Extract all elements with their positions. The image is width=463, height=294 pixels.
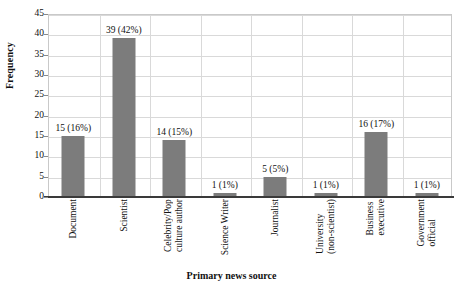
x-axis-category-label: Science Writer: [200, 199, 251, 265]
y-axis-title: Frequency: [4, 21, 15, 111]
category-label-line: Document: [68, 199, 79, 239]
x-axis-category-label: Businessexecutive: [351, 199, 402, 265]
category-label-line: Business: [365, 199, 376, 235]
y-axis-tick-labels: 454035302520151050: [22, 14, 44, 197]
x-axis-category-label: Celebrity/Popculture author: [149, 199, 200, 265]
category-label-line: culture author: [174, 199, 185, 252]
bar[interactable]: [112, 38, 135, 197]
y-axis-tick-label: 35: [35, 50, 45, 60]
category-label-lines: Governmentofficial: [416, 199, 438, 247]
bar[interactable]: [264, 177, 287, 197]
bar-value-label: 14 (15%): [156, 127, 192, 137]
y-axis-tickmark: [44, 177, 48, 178]
y-axis-tickmark: [44, 95, 48, 96]
y-axis-tickmark: [44, 116, 48, 117]
bar-group[interactable]: 15 (16%): [48, 14, 99, 197]
category-label-line: Government: [416, 199, 427, 247]
category-label-lines: Businessexecutive: [365, 199, 387, 235]
x-axis-category-labels: DocumentScientistCelebrity/Popculture au…: [48, 199, 452, 269]
y-axis-tick-label: 20: [35, 111, 45, 121]
x-axis-category-label: University(non-scientist): [301, 199, 352, 265]
y-axis-tickmark: [44, 156, 48, 157]
bar[interactable]: [163, 140, 186, 197]
y-axis-tick-label: 30: [35, 70, 45, 80]
y-axis-tickmark: [44, 55, 48, 56]
bar-group[interactable]: 14 (15%): [149, 14, 200, 197]
bar[interactable]: [62, 136, 85, 197]
bar-group[interactable]: 16 (17%): [351, 14, 402, 197]
x-axis-category-label: Governmentofficial: [402, 199, 453, 265]
bar-value-label: 1 (1%): [414, 180, 440, 190]
y-axis-tick-label: 10: [35, 151, 45, 161]
bar-group[interactable]: 39 (42%): [99, 14, 150, 197]
x-axis-title: Primary news source: [0, 270, 463, 281]
bar-value-label: 5 (5%): [262, 164, 288, 174]
x-axis-category-label: Journalist: [250, 199, 301, 265]
y-axis-tickmark: [44, 14, 48, 15]
bar-group[interactable]: 1 (1%): [301, 14, 352, 197]
y-axis-tickmark: [44, 197, 48, 198]
bar-chart: Frequency 454035302520151050 15 (16%)39 …: [0, 0, 463, 294]
bars-layer: 15 (16%)39 (42%)14 (15%)1 (1%)5 (5%)1 (1…: [48, 14, 452, 197]
y-axis-tick-label: 25: [35, 90, 45, 100]
category-label-line: Scientist: [118, 199, 129, 232]
category-label-lines: Celebrity/Popculture author: [163, 199, 185, 252]
category-label-line: Journalist: [270, 199, 281, 236]
y-axis-tickmark: [44, 34, 48, 35]
category-label-line: Celebrity/Pop: [163, 199, 174, 252]
bar-value-label: 39 (42%): [106, 25, 142, 35]
y-axis-tick-label: 15: [35, 131, 45, 141]
bar-group[interactable]: 1 (1%): [402, 14, 453, 197]
category-label-line: official: [427, 199, 438, 247]
y-axis-tickmark: [44, 136, 48, 137]
category-label-line: executive: [376, 199, 387, 235]
category-label-lines: Document: [68, 199, 79, 239]
bar-group[interactable]: 1 (1%): [200, 14, 251, 197]
category-label-line: (non-scientist): [326, 199, 337, 254]
category-label-lines: University(non-scientist): [315, 199, 337, 254]
x-axis-line: [44, 196, 454, 198]
x-axis-category-label: Document: [48, 199, 99, 265]
category-label-lines: Journalist: [270, 199, 281, 236]
bar-value-label: 16 (17%): [358, 119, 394, 129]
bar-value-label: 15 (16%): [55, 123, 91, 133]
y-axis-tick-label: 40: [35, 29, 45, 39]
category-label-line: Science Writer: [219, 199, 230, 255]
bar-group[interactable]: 5 (5%): [250, 14, 301, 197]
category-label-line: University: [315, 199, 326, 254]
category-label-lines: Science Writer: [219, 199, 230, 255]
bar-value-label: 1 (1%): [313, 180, 339, 190]
y-axis-tickmark: [44, 75, 48, 76]
y-axis-tick-label: 45: [35, 9, 45, 19]
bar-value-label: 1 (1%): [212, 180, 238, 190]
category-label-lines: Scientist: [118, 199, 129, 232]
bar[interactable]: [365, 132, 388, 197]
x-axis-category-label: Scientist: [99, 199, 150, 265]
